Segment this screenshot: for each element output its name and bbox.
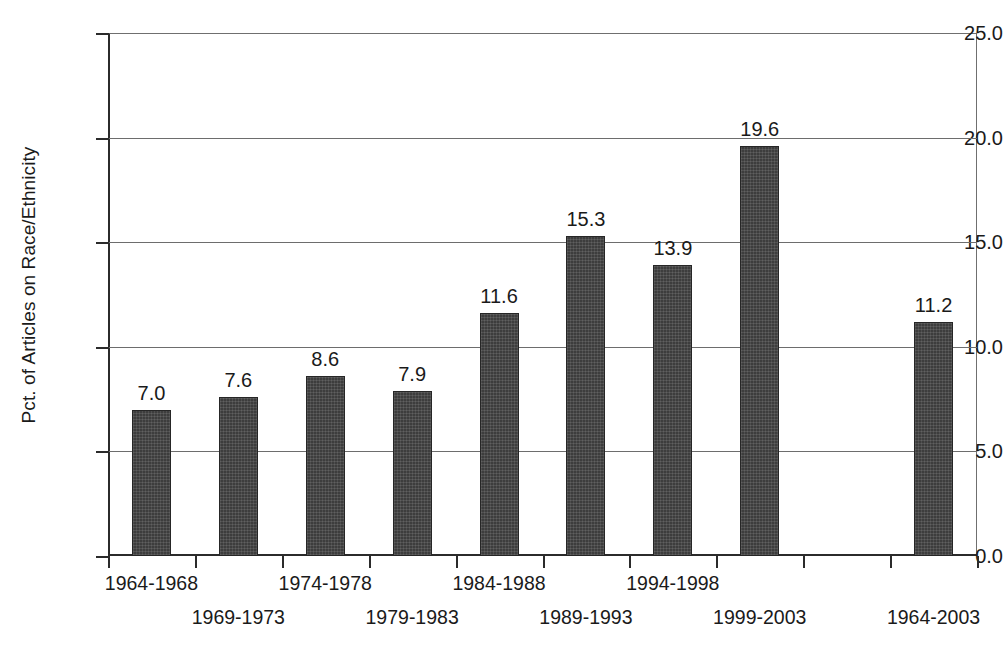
x-axis-category-label: 1964-1968 (81, 572, 221, 594)
y-axis-tick (96, 451, 109, 453)
x-axis-category-label: 1989-1993 (516, 606, 656, 628)
x-axis-tick (629, 556, 631, 568)
bar (393, 391, 432, 556)
bar-value-label: 7.9 (367, 364, 457, 385)
bar (653, 265, 692, 556)
x-axis-category-label: 1969-1973 (168, 606, 308, 628)
y-axis-tick (96, 138, 109, 140)
x-axis-category-label: 1964-2003 (864, 606, 1003, 628)
x-axis-tick (803, 556, 805, 568)
x-axis-category-label: 1994-1998 (603, 572, 743, 594)
gridline (108, 138, 977, 139)
y-axis-tick (96, 347, 109, 349)
x-axis-category-label: 1974-1978 (255, 572, 395, 594)
bar (480, 313, 519, 556)
bar-value-label: 19.6 (715, 119, 805, 140)
x-axis-tick (890, 556, 892, 568)
y-axis-tick (96, 33, 109, 35)
y-axis-tick-label: 25.0 (917, 23, 1003, 43)
gridline (108, 347, 977, 348)
x-axis-tick (456, 556, 458, 568)
bar (132, 410, 171, 556)
x-axis-tick (282, 556, 284, 568)
gridline (108, 242, 977, 243)
bar (740, 146, 779, 556)
bar (566, 236, 605, 556)
bar (306, 376, 345, 556)
bar (219, 397, 258, 556)
bar-chart-figure: Pct. of Articles on Race/Ethnicity 0.05.… (0, 0, 1003, 646)
y-axis-title: Pct. of Articles on Race/Ethnicity (18, 0, 44, 585)
x-axis-category-label: 1979-1983 (342, 606, 482, 628)
x-axis-tick (369, 556, 371, 568)
x-axis-category-label: 1999-2003 (690, 606, 830, 628)
bar-value-label: 8.6 (280, 349, 370, 370)
bar-value-label: 15.3 (541, 209, 631, 230)
x-axis-category-label: 1984-1988 (429, 572, 569, 594)
bar (914, 322, 953, 556)
bar-value-label: 13.9 (628, 238, 718, 259)
y-axis-tick (96, 242, 109, 244)
x-axis-tick (977, 556, 979, 568)
bar-value-label: 11.6 (454, 286, 544, 307)
x-axis-tick (108, 556, 110, 568)
bar-value-label: 11.2 (889, 295, 979, 316)
x-axis-tick (543, 556, 545, 568)
x-axis-tick (716, 556, 718, 568)
x-axis-tick (195, 556, 197, 568)
bar-value-label: 7.0 (106, 383, 196, 404)
bar-value-label: 7.6 (193, 370, 283, 391)
